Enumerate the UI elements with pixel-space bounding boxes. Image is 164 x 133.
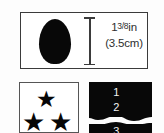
dimension-metric-line: (3.5cm) (101, 35, 147, 51)
torn-edge-icon (89, 112, 152, 126)
star-icon: ★ (49, 109, 72, 133)
list-item: 1 (89, 86, 148, 98)
dimension-line-icon (84, 17, 95, 65)
dimension-cap-bottom-icon (84, 64, 95, 66)
figure-screenshot: 13/8in (3.5cm) ★ ★ ★ 1 2 3 (0, 0, 164, 133)
star-icon: ★ (22, 109, 45, 133)
dimension-inches-fraction: 3/8 (117, 21, 128, 31)
top-panel-size-reference: 13/8in (3.5cm) (20, 12, 148, 69)
dimension-bar-icon (89, 17, 91, 65)
numbered-list-panel: 1 2 3 (89, 82, 152, 133)
list-item: 2 (89, 101, 148, 113)
dimension-inches-unit: in (128, 21, 137, 33)
dimension-inches-line: 13/8in (101, 18, 147, 35)
dimension-label: 13/8in (3.5cm) (101, 18, 147, 51)
egg-oval-icon (39, 19, 71, 64)
list-item: 3 (89, 125, 148, 133)
stars-panel: ★ ★ ★ (19, 82, 79, 133)
